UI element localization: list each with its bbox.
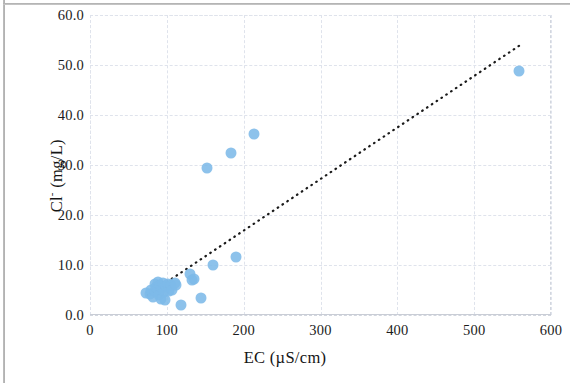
gridline-vertical (167, 15, 168, 315)
data-point (160, 295, 171, 306)
y-axis-title-superscript: - (45, 192, 57, 196)
data-point (189, 273, 200, 284)
gridline-vertical (90, 15, 91, 315)
data-point (513, 66, 524, 77)
y-axis-title-base: Cl (47, 196, 66, 212)
gridline-vertical (397, 15, 398, 315)
plot-area (90, 15, 551, 315)
data-point (201, 162, 212, 173)
y-axis-title: Cl- (mg/L) (45, 66, 67, 286)
x-axis-tick-labels: 0100200300400500600 (0, 322, 570, 344)
gridline-vertical (551, 15, 552, 315)
y-axis-title-wrapper: Cl- (mg/L) (30, 15, 31, 315)
x-axis-title: EC (µS/cm) (0, 348, 570, 368)
y-axis-title-unit: (mg/L) (47, 139, 66, 192)
chart-figure: 0.010.020.030.040.050.060.0 010020030040… (0, 0, 570, 383)
x-tick-label: 300 (309, 322, 331, 339)
y-axis-tick-labels: 0.010.020.030.040.050.060.0 (0, 15, 84, 315)
x-tick-label: 0 (86, 322, 93, 339)
x-tick-label: 100 (156, 322, 178, 339)
data-point (225, 147, 236, 158)
gridline-vertical (474, 15, 475, 315)
x-tick-label: 400 (386, 322, 408, 339)
data-point (207, 260, 218, 271)
data-point (230, 251, 241, 262)
data-point (171, 280, 182, 291)
x-axis-line (90, 314, 551, 315)
data-point (196, 293, 207, 304)
y-tick-label: 0.0 (65, 307, 84, 324)
gridline-vertical (321, 15, 322, 315)
gridline-horizontal (90, 315, 551, 316)
y-tick-label: 60.0 (58, 7, 84, 24)
gridline-vertical (244, 15, 245, 315)
data-point (248, 129, 259, 140)
x-tick-label: 200 (232, 322, 254, 339)
x-tick-label: 600 (540, 322, 562, 339)
x-tick-label: 500 (463, 322, 485, 339)
scan-border-top (3, 3, 570, 5)
data-point (175, 300, 186, 311)
